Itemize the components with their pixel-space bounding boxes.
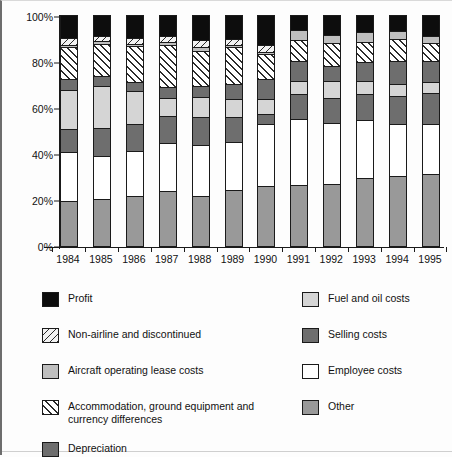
bar-segment-accom (258, 55, 274, 80)
bar-segment-deprec (390, 62, 406, 85)
legend-item-fuel: Fuel and oil costs (302, 292, 447, 307)
other-swatch (302, 400, 319, 415)
bar-segment-fuel (61, 91, 77, 130)
x-axis-tick-mark (184, 247, 185, 252)
bar-segment-other (160, 192, 176, 246)
bar-1994 (389, 15, 407, 247)
legend-item-lease: Aircraft operating lease costs (42, 364, 272, 379)
bar-segment-deprec (61, 80, 77, 90)
stacked-bar-plot-area: 0%20%40%60%80%100% (60, 17, 438, 247)
bar-segment-employee (423, 125, 439, 174)
y-axis-tick-label: 60% (1, 104, 60, 115)
bar-segment-profit (390, 16, 406, 32)
bar-segment-accom (226, 48, 242, 85)
bar-segment-employee (390, 125, 406, 177)
legend-label: Fuel and oil costs (328, 292, 410, 305)
bar-segment-profit (61, 16, 77, 39)
bar-segment-accom (94, 45, 110, 77)
bar-segment-accom (291, 41, 307, 62)
legend-item-other: Other (302, 400, 447, 415)
legend-item-accom: Accommodation, ground equipment and curr… (42, 400, 272, 425)
bar-segment-fuel (226, 100, 242, 118)
bar-segment-accom (324, 44, 340, 67)
bar-segment-selling (324, 99, 340, 124)
bar-segment-selling (160, 117, 176, 143)
bar-segment-fuel (324, 82, 340, 99)
bar-segment-profit (160, 16, 176, 37)
y-axis-tick-label: 40% (1, 150, 60, 161)
bar-1986 (126, 15, 144, 247)
bar-segment-employee (61, 153, 77, 202)
bar-segment-lease (357, 33, 373, 42)
bar-segment-profit (324, 16, 340, 36)
bar-segment-other (94, 200, 110, 246)
bar-segment-selling (226, 118, 242, 142)
y-axis-tick-mark (54, 201, 59, 202)
bar-segment-selling (390, 97, 406, 126)
legend-item-selling: Selling costs (302, 328, 447, 343)
bar-1989 (225, 15, 243, 247)
bar-segment-other (127, 197, 143, 246)
bar-segment-other (324, 185, 340, 246)
bar-segment-accom (193, 52, 209, 88)
x-axis-tick-mark (282, 247, 283, 252)
bar-segment-lease (324, 36, 340, 44)
x-axis-tick-mark (52, 247, 53, 252)
bar-segment-other (357, 179, 373, 246)
bar-1985 (93, 15, 111, 247)
bar-segment-profit (423, 16, 439, 37)
bar-segment-selling (61, 130, 77, 153)
bar-segment-employee (258, 125, 274, 187)
bar-segment-fuel (357, 82, 373, 96)
legend-label: Aircraft operating lease costs (68, 364, 203, 377)
legend-label: Other (328, 400, 354, 413)
accom-swatch (42, 400, 59, 415)
bar-segment-deprec (94, 77, 110, 87)
bar-segment-other (226, 191, 242, 246)
bar-segment-nonair (258, 46, 274, 53)
x-axis-tick-mark (414, 247, 415, 252)
bar-segment-employee (193, 146, 209, 197)
bar-segment-profit (193, 16, 209, 41)
legend-item-employee: Employee costs (302, 364, 447, 379)
bar-segment-accom (390, 40, 406, 62)
legend-label: Non-airline and discontinued (68, 328, 201, 341)
y-axis-tick-mark (54, 109, 59, 110)
x-axis-tick-mark (249, 247, 250, 252)
bar-1988 (192, 15, 210, 247)
bar-segment-employee (357, 121, 373, 180)
bar-segment-deprec (324, 67, 340, 82)
y-axis-tick-label: 20% (1, 196, 60, 207)
legend-item-profit: Profit (42, 292, 272, 307)
bar-segment-employee (226, 143, 242, 191)
bar-1995 (422, 15, 440, 247)
bar-segment-lease (423, 37, 439, 44)
legend-item-deprec: Depreciation (42, 442, 272, 457)
bar-segment-profit (94, 16, 110, 37)
x-axis-tick-mark (348, 247, 349, 252)
bar-segment-deprec (357, 63, 373, 81)
legend-item-nonairline: Non-airline and discontinued (42, 328, 272, 343)
bar-segment-selling (291, 95, 307, 119)
bar-segment-profit (226, 16, 242, 40)
bar-segment-deprec (160, 88, 176, 98)
bar-segment-employee (160, 144, 176, 192)
y-axis-tick-label: 100% (1, 12, 60, 23)
bar-1987 (159, 15, 177, 247)
bar-segment-selling (357, 95, 373, 120)
bar-segment-other (258, 187, 274, 246)
bar-segment-accom (160, 46, 176, 89)
bar-segment-employee (324, 124, 340, 185)
bar-segment-profit (127, 16, 143, 39)
bar-segment-accom (357, 43, 373, 64)
x-axis-tick-mark (85, 247, 86, 252)
bar-segment-selling (258, 115, 274, 125)
bar-segment-fuel (160, 99, 176, 117)
bar-1991 (290, 15, 308, 247)
chart-legend: ProfitNon-airline and discontinuedAircra… (0, 292, 452, 442)
bar-1992 (323, 15, 341, 247)
x-axis-label-1995: 1995 (410, 253, 450, 265)
bar-segment-fuel (193, 98, 209, 119)
bar-segment-fuel (390, 85, 406, 97)
bar-segment-employee (94, 157, 110, 200)
